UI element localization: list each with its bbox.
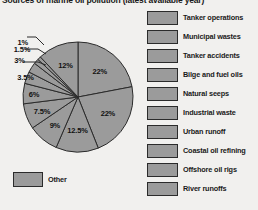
legend-swatch-other — [13, 172, 43, 187]
legend-item[interactable]: Natural seeps — [147, 84, 258, 103]
legend-swatch — [147, 144, 178, 158]
legend-label: Tanker accidents — [183, 51, 240, 60]
legend-item-other[interactable]: Other — [13, 172, 67, 187]
legend-item[interactable]: Industrial waste — [147, 103, 258, 122]
legend-label: Coastal oil refining — [183, 146, 246, 155]
legend-swatch — [147, 87, 178, 101]
legend-swatch — [147, 106, 178, 120]
pie-data-label: 6% — [29, 90, 39, 99]
legend-swatch — [147, 125, 178, 139]
pie-data-label: 3% — [14, 55, 24, 64]
legend-item[interactable]: Bilge and fuel oils — [147, 65, 258, 84]
legend-swatch — [147, 163, 178, 177]
legend-swatch — [147, 11, 178, 25]
legend-label: Bilge and fuel oils — [183, 70, 243, 79]
legend-swatch — [147, 30, 178, 44]
legend-item[interactable]: Urban runoff — [147, 122, 258, 141]
legend-label: Industrial waste — [183, 108, 236, 117]
legend-swatch — [147, 182, 178, 196]
legend-label: Urban runoff — [183, 127, 225, 136]
legend-swatch — [147, 68, 178, 82]
legend-item[interactable]: River runoffs — [147, 179, 258, 198]
pie-data-label: 9% — [50, 120, 60, 129]
pie-chart: 22%22%12.5%9%7.5%6%3.5%3%1.5%1%12% — [0, 18, 142, 178]
legend-item[interactable]: Offshore oil rigs — [147, 160, 258, 179]
legend-label: Tanker operations — [183, 13, 243, 22]
pie-data-label: 22% — [101, 109, 115, 118]
legend-label: River runoffs — [183, 184, 226, 193]
legend-label: Natural seeps — [183, 89, 229, 98]
legend-item[interactable]: Municipal wastes — [147, 27, 258, 46]
pie-data-label: 12% — [58, 61, 72, 70]
pie-data-label: 1% — [18, 37, 28, 46]
legend-item[interactable]: Tanker operations — [147, 8, 258, 27]
pie-slice-group — [23, 42, 133, 152]
chart-title: Sources of marine oil pollution (latest … — [2, 0, 204, 5]
legend-item[interactable]: Coastal oil refining — [147, 141, 258, 160]
legend-label: Offshore oil rigs — [183, 165, 237, 174]
pie-data-label: 7.5% — [34, 106, 50, 115]
legend: Tanker operationsMunicipal wastesTanker … — [147, 8, 258, 198]
legend-label: Municipal wastes — [183, 32, 241, 41]
legend-item[interactable]: Tanker accidents — [147, 46, 258, 65]
pie-data-label: 22% — [93, 66, 107, 75]
legend-label-other: Other — [48, 175, 67, 184]
pie-data-label: 3.5% — [17, 73, 33, 82]
legend-swatch — [147, 49, 178, 63]
pie-data-label: 12.5% — [67, 125, 87, 134]
